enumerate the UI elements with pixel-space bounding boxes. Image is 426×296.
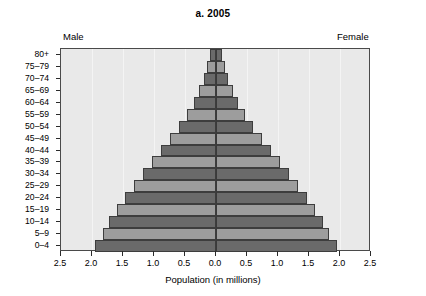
age-band bbox=[61, 121, 369, 133]
age-band bbox=[61, 109, 369, 121]
y-axis-label: 40–44 bbox=[25, 145, 49, 154]
bar-male bbox=[207, 61, 216, 73]
y-axis-label: 10–14 bbox=[25, 217, 49, 226]
age-band bbox=[61, 145, 369, 157]
y-axis-label: 15–19 bbox=[25, 205, 49, 214]
age-band bbox=[61, 97, 369, 109]
x-axis-label: 0.0 bbox=[209, 258, 222, 268]
age-band bbox=[61, 49, 369, 61]
y-axis-label: 45–49 bbox=[25, 133, 49, 142]
bar-female bbox=[216, 180, 298, 192]
bar-male bbox=[103, 228, 216, 240]
y-axis-label: 55–59 bbox=[25, 109, 49, 118]
age-band bbox=[61, 168, 369, 180]
x-axis-tick bbox=[122, 251, 123, 256]
bar-female bbox=[216, 168, 289, 180]
age-band bbox=[61, 192, 369, 204]
bar-female bbox=[216, 228, 329, 240]
x-axis-label: 0.5 bbox=[240, 258, 253, 268]
center-axis-line bbox=[216, 49, 217, 250]
bar-female bbox=[216, 61, 225, 73]
bar-male bbox=[179, 121, 216, 133]
age-band bbox=[61, 228, 369, 240]
age-band bbox=[61, 216, 369, 228]
x-axis-tick bbox=[184, 251, 185, 256]
age-band bbox=[61, 180, 369, 192]
x-axis-title: Population (in millions) bbox=[0, 274, 426, 285]
y-axis-label: 5–9 bbox=[35, 229, 49, 238]
bar-female bbox=[216, 73, 228, 85]
x-axis-label: 2.5 bbox=[364, 258, 377, 268]
x-axis-tick bbox=[91, 251, 92, 256]
bar-female bbox=[216, 85, 233, 97]
x-axis-tick bbox=[339, 251, 340, 256]
y-axis-label: 20–24 bbox=[25, 193, 49, 202]
x-axis-label: 1.5 bbox=[116, 258, 129, 268]
x-axis-tick bbox=[153, 251, 154, 256]
y-axis-label: 80+ bbox=[34, 50, 49, 59]
bar-male bbox=[143, 168, 216, 180]
bar-male bbox=[152, 156, 216, 168]
age-band bbox=[61, 85, 369, 97]
x-axis-label: 2.5 bbox=[54, 258, 67, 268]
bar-female bbox=[216, 109, 245, 121]
bar-female bbox=[216, 192, 307, 204]
bar-female bbox=[216, 121, 253, 133]
x-axis-tick bbox=[277, 251, 278, 256]
y-axis-label: 60–64 bbox=[25, 97, 49, 106]
bar-female bbox=[216, 204, 315, 216]
bar-male bbox=[109, 216, 216, 228]
male-label: Male bbox=[63, 31, 84, 42]
bar-female bbox=[216, 97, 238, 109]
y-axis-label: 70–74 bbox=[25, 74, 49, 83]
x-axis-tick bbox=[60, 251, 61, 256]
bar-male bbox=[117, 204, 216, 216]
bar-male bbox=[161, 145, 216, 157]
age-band bbox=[61, 204, 369, 216]
bar-female bbox=[216, 145, 271, 157]
bar-male bbox=[199, 85, 216, 97]
x-axis-tick bbox=[246, 251, 247, 256]
bar-male bbox=[125, 192, 216, 204]
x-axis-label: 2.0 bbox=[85, 258, 98, 268]
y-axis-label: 35–39 bbox=[25, 157, 49, 166]
x-axis-tick bbox=[370, 251, 371, 256]
x-axis-label: 2.0 bbox=[333, 258, 346, 268]
bar-female bbox=[216, 216, 323, 228]
x-axis-label: 0.5 bbox=[178, 258, 191, 268]
bar-male bbox=[204, 73, 216, 85]
population-pyramid-plot bbox=[60, 48, 370, 251]
y-axis-age-groups: 80+75–7970–7465–6960–6455–5950–5445–4940… bbox=[0, 48, 56, 251]
bar-female bbox=[216, 156, 280, 168]
x-axis-tick bbox=[308, 251, 309, 256]
y-axis-label: 50–54 bbox=[25, 121, 49, 130]
bar-male bbox=[187, 109, 216, 121]
bar-male bbox=[170, 133, 216, 145]
female-label: Female bbox=[337, 31, 369, 42]
y-axis-label: 0–4 bbox=[35, 241, 49, 250]
bar-male bbox=[134, 180, 216, 192]
age-band bbox=[61, 73, 369, 85]
x-axis-label: 1.5 bbox=[302, 258, 315, 268]
x-axis-label: 1.0 bbox=[147, 258, 160, 268]
y-axis-label: 75–79 bbox=[25, 62, 49, 71]
y-axis-label: 30–34 bbox=[25, 169, 49, 178]
chart-title: a. 2005 bbox=[0, 8, 426, 19]
bar-male bbox=[194, 97, 216, 109]
x-axis-label: 1.0 bbox=[271, 258, 284, 268]
y-axis-label: 65–69 bbox=[25, 85, 49, 94]
age-band bbox=[61, 133, 369, 145]
x-axis-tick bbox=[215, 251, 216, 256]
y-axis-label: 25–29 bbox=[25, 181, 49, 190]
age-band bbox=[61, 156, 369, 168]
bar-female bbox=[216, 133, 262, 145]
age-band bbox=[61, 61, 369, 73]
